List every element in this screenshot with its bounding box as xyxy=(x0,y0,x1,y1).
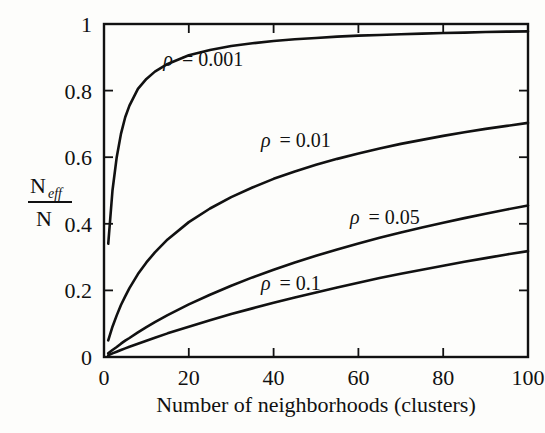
y-tick-label: 0 xyxy=(81,345,92,370)
y-axis-title-numerator: N xyxy=(30,173,46,198)
y-tick-label: 0.4 xyxy=(65,212,93,237)
y-axis-title-denominator: N xyxy=(36,206,52,231)
x-axis-title: Number of neighborhoods (clusters) xyxy=(156,392,476,417)
rho-symbol: ρ xyxy=(260,129,271,152)
x-tick-label: 0 xyxy=(99,365,110,390)
y-tick-label: 0.8 xyxy=(65,79,93,104)
y-axis-title-numerator-subscript: eff xyxy=(48,186,64,201)
curve-label: ρ = 0.1 xyxy=(260,272,321,295)
rho-value: = 0.05 xyxy=(364,206,420,228)
y-tick-label: 0.2 xyxy=(65,278,93,303)
y-tick-label: 0.6 xyxy=(65,145,93,170)
rho-symbol: ρ xyxy=(260,272,271,295)
rho-value: = 0.01 xyxy=(274,129,330,151)
x-tick-label: 40 xyxy=(263,365,285,390)
chart-figure: 00.20.40.60.81 020406080100 ρ = 0.001ρ =… xyxy=(0,0,545,433)
rho-symbol: ρ xyxy=(162,48,173,71)
x-tick-label: 80 xyxy=(432,365,454,390)
x-tick-label: 100 xyxy=(512,365,545,390)
rho-value: = 0.1 xyxy=(274,272,320,294)
y-tick-label: 1 xyxy=(81,12,92,37)
x-tick-label: 20 xyxy=(178,365,200,390)
x-tick-label: 60 xyxy=(347,365,369,390)
rho-value: = 0.001 xyxy=(177,48,243,70)
rho-symbol: ρ xyxy=(349,206,360,229)
